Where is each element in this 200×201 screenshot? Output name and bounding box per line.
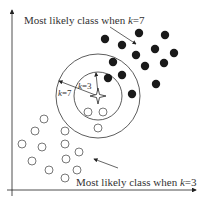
- outer-radius-label: k=7: [58, 88, 72, 98]
- k3-annotation-arrow: [94, 159, 118, 168]
- hollow-point: [61, 140, 69, 148]
- k3-annotation-label: Most likely class when k=3: [76, 176, 197, 188]
- inner-radius-label: k=3: [78, 81, 92, 91]
- filled-point: [135, 29, 143, 37]
- hollow-point: [61, 174, 69, 182]
- hollow-point: [94, 124, 102, 132]
- hollow-point: [40, 115, 48, 123]
- filled-point: [128, 90, 136, 98]
- filled-point: [160, 59, 168, 67]
- hollow-point: [73, 166, 81, 174]
- filled-point: [170, 49, 178, 57]
- filled-point: [132, 51, 140, 59]
- filled-point: [118, 71, 126, 79]
- hollow-point: [18, 140, 26, 148]
- hollow-point: [84, 108, 92, 116]
- filled-point: [101, 35, 109, 43]
- knn-diagram: k=7 k=3 Most likely class when k=7 Most …: [0, 0, 200, 201]
- test-point-star-icon: [90, 88, 106, 104]
- hollow-point: [31, 127, 39, 135]
- filled-point: [152, 80, 160, 88]
- k7-annotation-label: Most likely class when k=7: [24, 14, 145, 26]
- filled-point: [141, 62, 149, 70]
- filled-point: [109, 58, 117, 66]
- hollow-point: [99, 108, 107, 116]
- hollow-point: [28, 157, 36, 165]
- filled-point: [161, 31, 169, 39]
- hollow-point: [45, 166, 53, 174]
- filled-point: [151, 45, 159, 53]
- hollow-point: [75, 148, 83, 156]
- hollow-point: [38, 143, 46, 151]
- hollow-point: [61, 127, 69, 135]
- filled-point: [104, 74, 112, 82]
- filled-point: [118, 41, 126, 49]
- hollow-point: [62, 155, 70, 163]
